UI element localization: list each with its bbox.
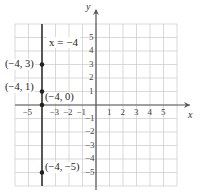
x-tick-label: 3 [134,108,139,117]
y-tick-label: −4 [85,154,95,163]
y-tick-label: 5 [89,33,94,42]
x-tick-label: 4 [148,108,153,117]
point-label-neg4-1: (−4, 1) [4,82,35,93]
y-tick-label: 2 [89,73,94,82]
point-label-neg4-neg5: (−4, −5) [44,162,81,173]
x-tick-label: 5 [161,108,166,117]
y-tick-label: 3 [89,60,94,69]
y-tick-label: −1 [85,114,95,123]
point-label-neg4-3: (−4, 3) [4,59,35,70]
y-tick-label: −5 [85,168,95,177]
coordinate-plane [0,0,200,196]
y-tick-label: −2 [85,127,95,136]
x-tick-label: −5 [23,108,33,117]
x-tick-label: 1 [107,108,112,117]
y-tick-label: 4 [89,46,94,55]
point-label-neg4-0: (−4, 0) [44,92,75,103]
y-tick-label: −3 [85,141,95,150]
x-tick-label: −3 [50,108,60,117]
y-tick-label: 1 [89,87,94,96]
x-tick-label: 2 [121,108,126,117]
x-axis-label: x [188,110,192,120]
x-tick-label: −2 [63,108,73,117]
y-axis-label: y [86,2,90,12]
equation-label: x = −4 [47,37,80,48]
